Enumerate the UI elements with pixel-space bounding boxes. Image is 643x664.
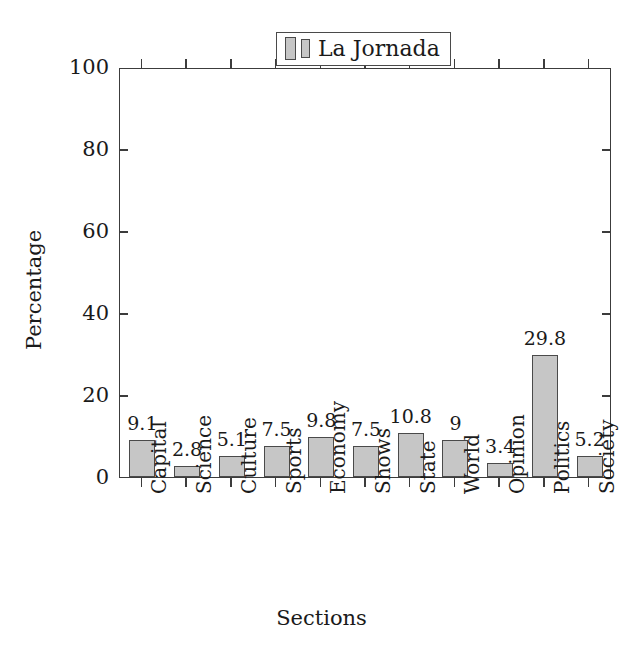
x-axis-tick bbox=[454, 59, 455, 68]
y-tick-label: 40 bbox=[9, 303, 109, 324]
y-tick-label: 0 bbox=[9, 467, 109, 488]
x-axis-tick bbox=[275, 478, 276, 487]
x-tick-label-capital: Capital bbox=[149, 421, 169, 494]
x-axis-tick bbox=[498, 59, 499, 68]
x-tick-label-sports: Sports bbox=[284, 428, 304, 494]
x-tick-label-world: World bbox=[462, 434, 482, 494]
x-axis-tick bbox=[141, 59, 142, 68]
x-axis-tick bbox=[409, 478, 410, 487]
legend-swatch-icon bbox=[285, 37, 296, 60]
x-axis-tick bbox=[141, 478, 142, 487]
y-tick-label: 60 bbox=[9, 221, 109, 242]
bar-value-label: 9 bbox=[420, 414, 490, 433]
y-axis-tick bbox=[119, 149, 128, 150]
y-axis-tick bbox=[119, 231, 128, 232]
x-axis-tick bbox=[543, 478, 544, 487]
x-tick-label-state: State bbox=[418, 440, 438, 494]
y-axis-tick bbox=[119, 313, 128, 314]
y-axis-tick bbox=[602, 149, 611, 150]
y-axis-tick bbox=[602, 231, 611, 232]
x-axis-tick bbox=[320, 478, 321, 487]
x-axis-tick bbox=[230, 59, 231, 68]
legend: La Jornada bbox=[276, 32, 451, 66]
x-tick-label-culture: Culture bbox=[239, 417, 259, 494]
x-tick-label-science: Science bbox=[194, 415, 214, 494]
x-axis-tick bbox=[364, 478, 365, 487]
bar-value-label: 29.8 bbox=[510, 329, 580, 348]
y-axis-tick bbox=[119, 395, 128, 396]
x-axis-tick bbox=[498, 478, 499, 487]
x-axis-tick bbox=[543, 59, 544, 68]
x-tick-label-economy: Economy bbox=[328, 401, 348, 494]
x-axis-tick bbox=[588, 478, 589, 487]
x-axis-tick bbox=[588, 59, 589, 68]
y-tick-label: 80 bbox=[9, 139, 109, 160]
bar-chart: Percentage 020406080100 9.12.85.17.59.87… bbox=[0, 0, 643, 664]
x-tick-label-politics: Politics bbox=[552, 421, 572, 494]
legend-label: La Jornada bbox=[318, 38, 440, 60]
x-axis-tick bbox=[454, 478, 455, 487]
y-axis-tick bbox=[602, 313, 611, 314]
y-tick-label: 100 bbox=[9, 57, 109, 78]
x-axis-title: Sections bbox=[0, 606, 643, 630]
y-tick-label: 20 bbox=[9, 385, 109, 406]
x-tick-label-shows: Shows bbox=[373, 428, 393, 494]
x-axis-tick bbox=[185, 59, 186, 68]
y-axis-title: Percentage bbox=[22, 230, 46, 350]
x-axis-tick bbox=[230, 478, 231, 487]
x-axis-tick bbox=[185, 478, 186, 487]
legend-swatch-secondary-icon bbox=[301, 39, 310, 58]
y-axis-tick bbox=[602, 395, 611, 396]
x-tick-label-opinion: Opinion bbox=[507, 414, 527, 494]
x-tick-label-society: Society bbox=[597, 419, 617, 494]
